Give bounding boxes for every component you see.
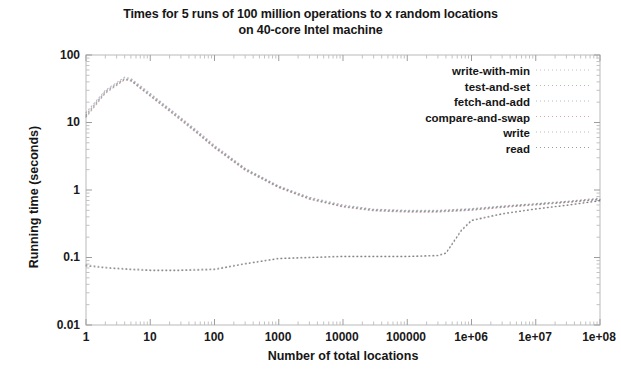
y-tick-label: 0.1 [36,250,80,264]
x-tick-label: 1000 [243,330,313,344]
x-tick-label: 100 [179,330,249,344]
legend-item-write: write [360,126,530,142]
x-tick-label: 1 [51,330,121,344]
chart-legend: write-with-min test-and-set fetch-and-ad… [360,64,530,157]
plot-canvas [0,0,621,370]
legend-item-compare-and-swap: compare-and-swap [360,111,530,127]
chart-figure: Times for 5 runs of 100 million operatio… [0,0,621,370]
y-tick-label: 1 [36,183,80,197]
series-line-write [86,200,600,269]
x-tick-label: 1e+08 [564,330,621,344]
legend-item-read: read [360,142,530,158]
y-axis-label: Running time (seconds) [27,77,41,317]
x-tick-label: 1e+07 [500,330,570,344]
legend-item-write-with-min: write-with-min [360,64,530,80]
x-tick-label: 100000 [371,330,441,344]
y-tick-label: 10 [36,115,80,129]
series-line-read [86,201,600,271]
x-tick-label: 1e+06 [436,330,506,344]
y-tick-label: 100 [36,48,80,62]
x-tick-label: 10 [115,330,185,344]
x-tick-label: 10000 [307,330,377,344]
x-axis-label: Number of total locations [86,349,600,363]
legend-item-fetch-and-add: fetch-and-add [360,95,530,111]
legend-item-test-and-set: test-and-set [360,80,530,96]
